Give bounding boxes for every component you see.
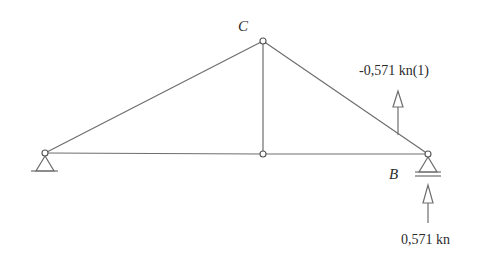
- load-arrow-up-icon: [393, 91, 403, 135]
- node-b: [425, 151, 431, 157]
- reaction-arrow-up-icon: [423, 185, 433, 223]
- load-label-reaction: 0,571 kn: [401, 233, 450, 247]
- load-label-upper: -0,571 kn(1): [359, 64, 429, 78]
- node-a: [42, 150, 48, 156]
- member-a-c: [45, 41, 263, 153]
- node-m: [260, 151, 266, 157]
- roller-support-icon: [415, 157, 441, 176]
- pin-support-icon: [31, 156, 58, 171]
- member-a-m: [45, 153, 263, 154]
- truss-diagram: C B -0,571 kn(1) 0,571 kn: [0, 0, 479, 269]
- node-label-b: B: [389, 167, 398, 182]
- node-label-c: C: [238, 19, 248, 34]
- truss-drawing: [0, 0, 479, 269]
- node-c: [260, 38, 266, 44]
- member-c-b: [263, 41, 428, 154]
